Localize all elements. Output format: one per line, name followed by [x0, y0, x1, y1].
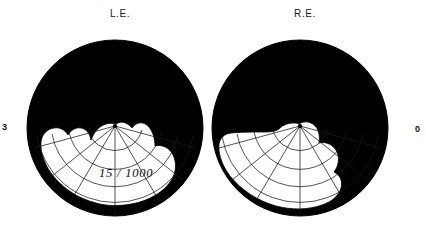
edge-label-right: 0 [415, 124, 420, 134]
chart-left-eye [27, 40, 203, 216]
target-annotation-left-eye: 15 / 1000 [99, 166, 153, 181]
le-fixation-point [113, 124, 117, 128]
chart-right-eye [212, 40, 388, 216]
chart-title-left-eye: L.E. [88, 8, 152, 19]
edge-label-left: 3 [2, 122, 7, 132]
visual-field-figure [0, 0, 426, 248]
re-fixation-point [298, 124, 302, 128]
chart-title-right-eye: R.E. [273, 8, 337, 19]
